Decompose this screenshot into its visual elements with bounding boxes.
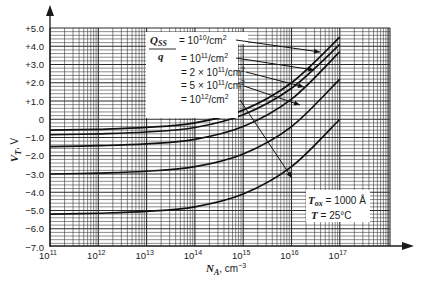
- y-tick-label: −5.0: [25, 205, 44, 216]
- x-tick-label: 1015: [232, 249, 250, 261]
- y-tick-label: −3.0: [25, 169, 44, 180]
- conditions-annotation: Tox = 1000 Å T = 25°C: [306, 190, 370, 222]
- svg-text:T = 25°C: T = 25°C: [311, 209, 351, 221]
- x-tick-labels: 1011101210131014101510161017: [39, 249, 347, 261]
- threshold-voltage-chart: +5.0+4.0+3.0+2.0+1.00−1.0−2.0−3.0−4.0−5.…: [0, 0, 423, 282]
- y-tick-label: +4.0: [25, 41, 44, 52]
- y-tick-label: +1.0: [25, 96, 44, 107]
- x-tick-label: 1013: [135, 249, 153, 261]
- y-tick-label: −4.0: [25, 187, 44, 198]
- x-tick-label: 1014: [184, 249, 202, 261]
- y-tick-label: 0: [39, 114, 44, 125]
- svg-text:VT, V: VT, V: [8, 137, 23, 162]
- x-tick-label: 1016: [280, 249, 298, 261]
- y-tick-label: −6.0: [25, 223, 44, 234]
- y-tick-label: +2.0: [25, 77, 44, 88]
- y-tick-label: −2.0: [25, 150, 44, 161]
- legend: QSS q = 1010/cm2= 1011/cm2= 2 × 1011/cm2…: [146, 32, 248, 118]
- svg-text:q: q: [158, 50, 164, 62]
- x-tick-label: 1012: [87, 249, 105, 261]
- arrowhead-icon: [314, 49, 320, 54]
- svg-text:NA, cm−3: NA, cm−3: [205, 262, 246, 277]
- legend-entry: = 2 × 1011/cm2: [181, 66, 245, 78]
- y-tick-label: +5.0: [25, 23, 44, 34]
- x-tick-label: 1017: [329, 249, 347, 261]
- x-axis-arrow-icon: [402, 242, 414, 250]
- y-axis-arrow-icon: [46, 5, 54, 16]
- y-axis-label: VT, V: [8, 137, 23, 162]
- y-tick-labels: +5.0+4.0+3.0+2.0+1.00−1.0−2.0−3.0−4.0−5.…: [25, 23, 44, 253]
- x-axis-label: NA, cm−3: [205, 262, 246, 277]
- y-tick-label: +3.0: [25, 59, 44, 70]
- x-tick-label: 1011: [39, 249, 57, 261]
- y-tick-label: −1.0: [25, 132, 44, 143]
- legend-entry: = 5 × 1011/cm2: [181, 79, 245, 91]
